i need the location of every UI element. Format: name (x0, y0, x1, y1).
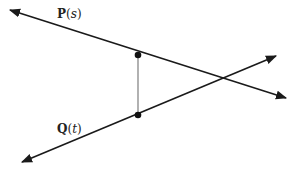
line-q (22, 56, 276, 162)
point-on-q (135, 112, 142, 119)
skew-lines-diagram: P(s) Q(t) (0, 0, 290, 173)
label-p-close: ) (77, 7, 82, 21)
point-on-p (135, 52, 142, 59)
line-p (10, 10, 286, 98)
label-p: P(s) (57, 7, 82, 21)
label-q: Q(t) (57, 122, 82, 136)
label-p-name: P (57, 7, 66, 21)
label-q-close: ) (77, 122, 82, 136)
label-q-name: Q (57, 122, 67, 136)
